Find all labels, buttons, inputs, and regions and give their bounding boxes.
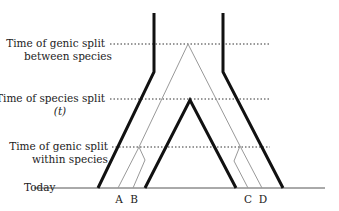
label-species-split-1: Time of species split xyxy=(0,92,106,104)
species-tree-inner xyxy=(145,100,236,188)
label-genic-split-between-2: between species xyxy=(24,50,112,62)
label-genic-split-within-2: within species xyxy=(32,153,108,165)
leaf-label-c: C xyxy=(244,193,252,205)
gene-tree-b-branch xyxy=(133,147,145,188)
label-today: Today xyxy=(24,181,55,193)
label-species-split-2: (t) xyxy=(54,105,66,117)
label-genic-split-within-1: Time of genic split xyxy=(9,140,109,152)
gene-tree-c-branch xyxy=(234,146,248,188)
label-genic-split-between-1: Time of genic split xyxy=(6,37,106,49)
leaf-label-a: A xyxy=(114,193,123,205)
leaf-label-d: D xyxy=(259,193,267,205)
gene-species-tree-diagram: Time of genic split between species Time… xyxy=(0,0,339,211)
species-tree-right-outer xyxy=(223,13,283,188)
leaf-label-b: B xyxy=(130,193,138,205)
